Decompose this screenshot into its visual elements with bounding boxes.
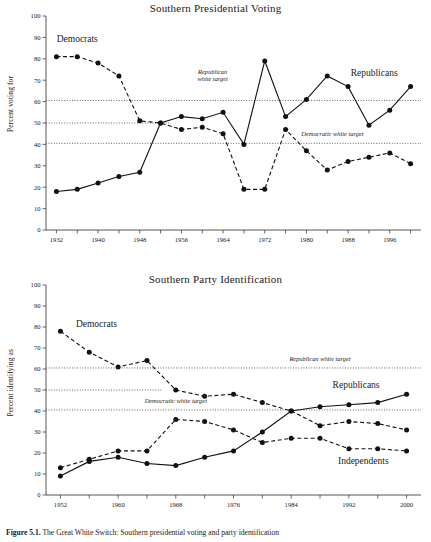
data-point-independents xyxy=(144,448,149,453)
data-point-republicans xyxy=(346,84,351,89)
data-point-republicans xyxy=(289,409,294,414)
data-point-republicans xyxy=(96,180,101,185)
data-point-independents xyxy=(58,465,63,470)
data-point-democrats xyxy=(260,400,265,405)
data-point-republicans xyxy=(221,110,226,115)
data-point-independents xyxy=(173,417,178,422)
y-tick-label: 50 xyxy=(34,386,41,393)
y-tick-label: 20 xyxy=(34,449,41,456)
data-point-republicans xyxy=(231,448,236,453)
data-point-republicans xyxy=(408,84,413,89)
data-point-republicans xyxy=(375,400,380,405)
data-point-independents xyxy=(318,436,323,441)
x-tick-label: 1980 xyxy=(300,236,314,243)
x-tick-label: 1968 xyxy=(169,501,183,508)
x-tick-label: 1956 xyxy=(175,236,189,243)
data-point-independents xyxy=(404,448,409,453)
x-tick-label: 1952 xyxy=(54,501,67,508)
y-tick-label: 30 xyxy=(34,428,41,435)
x-tick-label: 1948 xyxy=(133,236,147,243)
data-point-democrats xyxy=(262,187,267,192)
x-tick-label: 1972 xyxy=(258,236,271,243)
x-tick-label: 2000 xyxy=(400,501,414,508)
series-label-republicans: Republicans xyxy=(333,380,380,390)
data-point-independents xyxy=(260,440,265,445)
y-tick-label: 70 xyxy=(34,344,41,351)
y-tick-label: 20 xyxy=(34,184,41,191)
y-axis-label-presidential-voting: Percent voting for xyxy=(6,76,15,132)
y-tick-label: 60 xyxy=(34,98,41,105)
y-tick-label: 40 xyxy=(34,141,41,148)
y-tick-label: 30 xyxy=(34,162,41,169)
chart-axes xyxy=(46,16,421,230)
data-point-independents xyxy=(346,446,351,451)
data-point-democrats xyxy=(58,329,63,334)
democratic-white-target-label: Democratic white target xyxy=(300,130,363,137)
data-point-republicans xyxy=(173,463,178,468)
data-point-republicans xyxy=(202,455,207,460)
data-point-independents xyxy=(375,446,380,451)
data-point-democrats xyxy=(179,127,184,132)
data-point-democrats xyxy=(200,125,205,130)
data-point-democrats xyxy=(202,394,207,399)
data-point-democrats xyxy=(387,150,392,155)
y-tick-label: 70 xyxy=(34,77,41,84)
y-tick-label: 0 xyxy=(37,226,41,233)
data-point-democrats xyxy=(241,187,246,192)
data-point-democrats xyxy=(116,73,121,78)
data-point-democrats xyxy=(408,161,413,166)
data-point-republicans xyxy=(158,121,163,126)
series-label-democrats: Democrats xyxy=(57,34,98,44)
data-point-democrats xyxy=(54,54,59,59)
data-point-republicans xyxy=(260,430,265,435)
y-tick-label: 90 xyxy=(34,302,41,309)
y-tick-label: 10 xyxy=(34,205,41,212)
data-point-independents xyxy=(202,419,207,424)
data-point-republicans xyxy=(346,402,351,407)
series-label-democrats: Democrats xyxy=(76,319,117,329)
data-point-democrats xyxy=(304,148,309,153)
series-label-independents: Independents xyxy=(338,456,389,466)
data-point-republicans xyxy=(144,461,149,466)
x-tick-label: 1996 xyxy=(383,236,397,243)
data-point-republicans xyxy=(116,174,121,179)
data-point-democrats xyxy=(173,388,178,393)
x-tick-label: 1964 xyxy=(216,236,230,243)
x-tick-label: 1932 xyxy=(50,236,63,243)
data-point-republicans xyxy=(137,170,142,175)
data-point-republicans xyxy=(404,392,409,397)
data-point-democrats xyxy=(318,423,323,428)
data-point-independents xyxy=(231,427,236,432)
x-tick-label: 1988 xyxy=(341,236,355,243)
x-tick-label: 1976 xyxy=(227,501,241,508)
data-point-democrats xyxy=(231,392,236,397)
republican-white-target-label: Republican xyxy=(197,68,227,75)
data-point-independents xyxy=(87,457,92,462)
data-point-republicans xyxy=(75,187,80,192)
data-point-democrats xyxy=(116,364,121,369)
data-point-democrats xyxy=(96,61,101,66)
y-tick-label: 50 xyxy=(34,119,41,126)
data-point-democrats xyxy=(221,131,226,136)
data-point-democrats xyxy=(346,159,351,164)
series-label-republicans: Republicans xyxy=(351,68,398,78)
data-point-independents xyxy=(289,436,294,441)
y-tick-label: 40 xyxy=(34,407,41,414)
chart-panel-party-identification: Southern Party Identification Percent id… xyxy=(0,271,431,521)
data-point-independents xyxy=(116,448,121,453)
data-point-democrats xyxy=(75,54,80,59)
chart-svg-party-identification: 0102030405060708090100195219601968197619… xyxy=(0,271,431,511)
republican-white-target-label: white target xyxy=(197,75,228,82)
figure-caption: Figure 5.1. The Great White Switch: Sout… xyxy=(6,528,431,542)
data-point-democrats xyxy=(404,427,409,432)
x-tick-label: 1960 xyxy=(112,501,126,508)
caption-prefix: Figure 5.1. xyxy=(6,528,41,537)
data-point-democrats xyxy=(137,118,142,123)
chart-svg-presidential-voting: 0102030405060708090100193219401948195619… xyxy=(0,0,431,250)
y-tick-label: 90 xyxy=(34,34,41,41)
chart-title-presidential-voting: Southern Presidential Voting xyxy=(0,2,431,14)
data-point-republicans xyxy=(58,474,63,479)
data-point-republicans xyxy=(366,123,371,128)
data-point-democrats xyxy=(283,127,288,132)
data-point-republicans xyxy=(262,58,267,63)
